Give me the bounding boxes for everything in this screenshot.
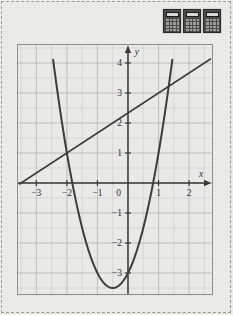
calculator-icon-1[interactable]: [163, 9, 181, 33]
svg-text:2: 2: [117, 118, 122, 128]
svg-text:1: 1: [117, 148, 122, 158]
svg-text:2: 2: [187, 188, 192, 198]
coordinate-plane: −3−2−1124321−1−2−30xy: [18, 45, 212, 294]
axis-labels: −3−2−1124321−1−2−30xy: [31, 47, 204, 278]
svg-text:1: 1: [156, 188, 161, 198]
calculator-screen: [166, 12, 179, 17]
axes: [18, 46, 212, 295]
svg-text:y: y: [134, 47, 140, 57]
svg-text:−3: −3: [31, 188, 41, 198]
calculator-screen: [186, 12, 199, 17]
calculator-keys: [206, 19, 219, 31]
svg-text:0: 0: [116, 188, 121, 198]
svg-text:−2: −2: [62, 188, 72, 198]
calculator-icon-3[interactable]: [203, 9, 221, 33]
svg-text:−1: −1: [112, 208, 122, 218]
calculator-icon-2[interactable]: [183, 9, 201, 33]
calculator-screen: [206, 12, 219, 17]
svg-text:−1: −1: [92, 188, 102, 198]
figure-page: −3−2−1124321−1−2−30xy: [0, 0, 233, 315]
graph-frame: −3−2−1124321−1−2−30xy: [17, 44, 213, 295]
grid-major-lines: [18, 45, 212, 294]
svg-text:4: 4: [117, 58, 122, 68]
svg-text:−3: −3: [112, 268, 122, 278]
calculator-icon-strip: [163, 9, 221, 33]
svg-text:x: x: [198, 169, 204, 179]
svg-text:−2: −2: [112, 238, 122, 248]
calculator-keys: [186, 19, 199, 31]
calculator-keys: [166, 19, 179, 31]
grid-minor-lines: [18, 45, 212, 294]
svg-text:3: 3: [117, 88, 122, 98]
